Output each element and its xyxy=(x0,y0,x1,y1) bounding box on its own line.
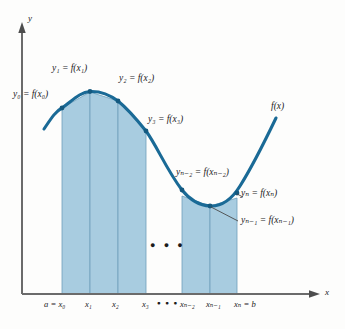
figure-canvas xyxy=(0,0,345,329)
y-axis-label: y xyxy=(28,14,32,23)
region-ellipsis: ● ● ● xyxy=(150,241,186,250)
node-marker-x3 xyxy=(144,129,149,134)
x-tick-label-xn: xₙ = b xyxy=(234,300,256,309)
x-tick-label-x1: x₁ xyxy=(85,300,92,309)
value-label-yn1: yₙ₋₁ = f(xₙ₋₁) xyxy=(241,216,294,226)
trapezoid-strip-n-1 xyxy=(182,196,210,294)
node-marker-x1 xyxy=(88,89,93,94)
node-marker-x2 xyxy=(116,99,121,104)
x-tick-label-xn2: xₙ₋₂ xyxy=(180,300,195,309)
value-label-yn: yₙ = f(xₙ) xyxy=(241,189,277,199)
value-label-y1: y₁ = f(x₁) xyxy=(52,64,87,74)
function-label: f(x) xyxy=(271,102,284,112)
x-tick-label-xn1: xₙ₋₁ xyxy=(206,300,221,309)
shaded-region-left xyxy=(62,92,146,294)
x-tick-label-x2: x₂ xyxy=(112,300,119,309)
value-label-y0: y₀ = f(x₀) xyxy=(13,90,48,100)
shaded-region-right xyxy=(182,196,237,294)
value-label-y3: y₃ = f(x₃) xyxy=(148,115,183,125)
x-tick-label-x0: a = x₀ xyxy=(44,300,65,309)
x-tick-label-x3: x₃ xyxy=(142,300,149,309)
value-label-y2: y₂ = f(x₂) xyxy=(119,74,154,84)
trapezoid-strip-1 xyxy=(62,92,90,294)
node-marker-xn2 xyxy=(180,188,185,193)
trapezoid-strip-2 xyxy=(90,92,118,294)
node-marker-x0 xyxy=(60,106,65,111)
x-axis-ellipsis: ● ● ● xyxy=(157,300,179,306)
x-axis-label: x xyxy=(325,288,329,297)
trapezoid-strip-3 xyxy=(118,101,146,294)
trapezoidal-rule-figure: y x f(x) y₀ = f(x₀) y₁ = f(x₁) y₂ = f(x₂… xyxy=(0,0,345,329)
trapezoid-strip-n xyxy=(210,198,237,294)
y-axis xyxy=(18,22,25,294)
value-label-yn2: yₙ₋₂ = f(xₙ₋₂) xyxy=(176,168,229,178)
